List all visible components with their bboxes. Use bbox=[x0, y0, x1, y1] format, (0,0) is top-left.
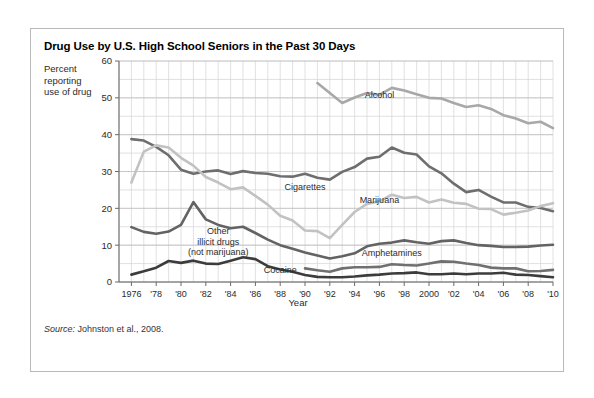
series-label-cigarettes: Cigarettes bbox=[284, 182, 325, 193]
y-tick-label: 10 bbox=[101, 240, 112, 251]
y-tick-label: 0 bbox=[107, 276, 112, 287]
source-value: Johnston et al., 2008. bbox=[75, 324, 164, 334]
series-label-other: Other illicit drugs (not marijuana) bbox=[188, 226, 249, 258]
series-label-alcohol: Alcohol bbox=[365, 90, 395, 101]
series-label-cocaine: Cocaine bbox=[264, 265, 297, 276]
series-label-marijuana: Marijuana bbox=[360, 195, 400, 206]
y-tick-label: 60 bbox=[101, 55, 112, 66]
series-label-amphetamines: Amphetamines bbox=[362, 248, 422, 259]
x-axis-title: Year bbox=[31, 297, 565, 308]
series-line-alcohol bbox=[317, 83, 553, 128]
line-chart: 01020304050601976'78'80'82'84'86'88'90'9… bbox=[31, 29, 565, 373]
figure-frame: Drug Use by U.S. High School Seniors in … bbox=[30, 28, 564, 372]
y-tick-label: 30 bbox=[101, 166, 112, 177]
source-note: Source: Johnston et al., 2008. bbox=[44, 324, 164, 334]
y-tick-label: 40 bbox=[101, 129, 112, 140]
source-label: Source: bbox=[44, 324, 75, 334]
y-axis-ticks: 0102030405060 bbox=[101, 55, 119, 287]
y-tick-label: 50 bbox=[101, 92, 112, 103]
y-tick-label: 20 bbox=[101, 203, 112, 214]
